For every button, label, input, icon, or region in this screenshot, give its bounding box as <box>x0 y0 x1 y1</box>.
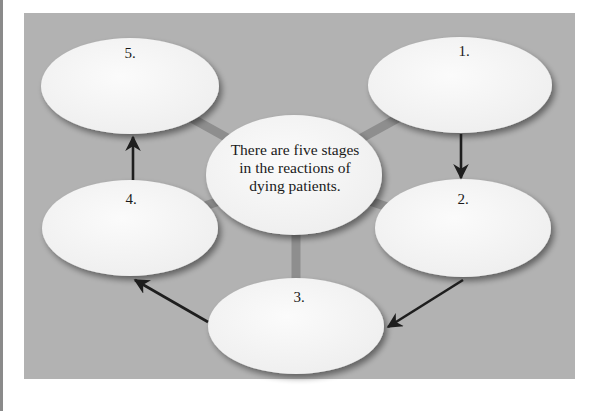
stage-1-label: 1. <box>444 43 484 60</box>
arrow-3-to-4 <box>135 280 208 322</box>
stage-2-label: 2. <box>443 191 483 208</box>
center-text: There are five stages in the reactions o… <box>209 141 381 195</box>
center-text-line-1: There are five stages <box>209 141 381 159</box>
center-text-line-2: in the reactions of <box>209 159 381 177</box>
stage-4-label: 4. <box>111 191 151 208</box>
diagram-canvas <box>0 0 602 411</box>
center-text-line-3: dying patients. <box>209 177 381 195</box>
stage-5-label: 5. <box>110 45 150 62</box>
stage-3-label: 3. <box>279 289 319 306</box>
arrow-2-to-3 <box>388 280 463 327</box>
